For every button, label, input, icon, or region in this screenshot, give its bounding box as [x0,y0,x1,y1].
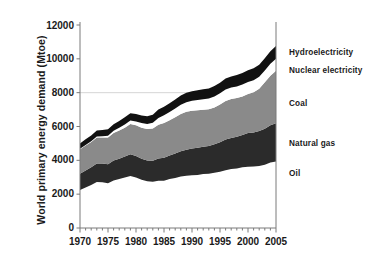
y-tick-2000: 2000 [30,189,74,199]
x-tick-2005: 2005 [256,236,296,247]
y-tick-10000: 10000 [30,54,74,64]
series-label-hydroelectricity: Hydroelectricity [289,48,353,57]
series-label-oil: Oil [289,169,300,178]
series-label-coal: Coal [289,99,307,108]
y-tick-0: 0 [30,223,74,233]
stacked-areas [80,46,276,228]
chart-figure: World primary energy demand (Mtoe) 12000… [0,0,378,272]
y-tick-8000: 8000 [30,88,74,98]
x-axis-tick-labels: 1970 1975 1980 1985 1990 1995 2000 2005 [0,236,378,252]
series-label-nuclear-electricity: Nuclear electricity [289,66,362,75]
y-axis-tick-labels: 12000 10000 8000 6000 4000 2000 0 [26,0,74,272]
y-tick-12000: 12000 [30,21,74,31]
y-tick-4000: 4000 [30,155,74,165]
series-label-natural-gas: Natural gas [289,139,335,148]
y-tick-6000: 6000 [30,122,74,132]
